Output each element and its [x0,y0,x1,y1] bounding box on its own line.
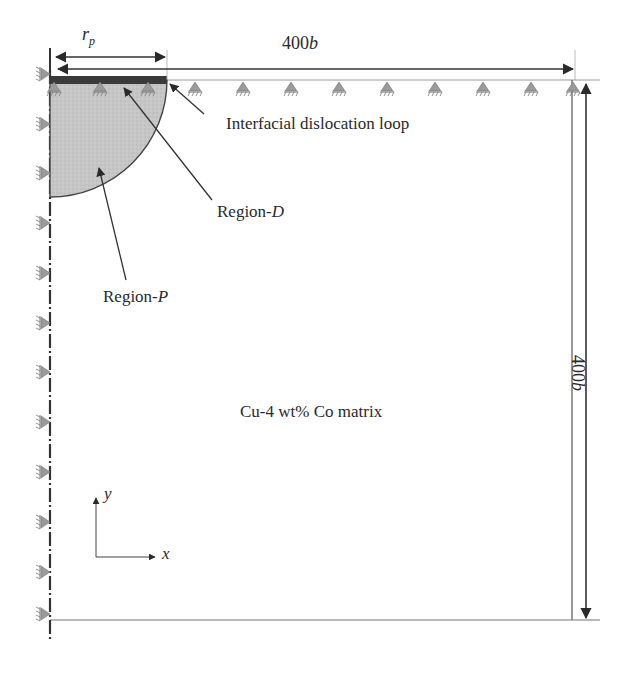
model-diagram [0,0,640,677]
rp-label: rp [82,24,95,49]
region-p-label: Region-P [103,287,168,307]
coordinate-axes [96,498,155,557]
region-d-label: Region-D [217,202,284,222]
region-d-band [50,76,167,84]
height-dimension-label: 400b [567,355,588,391]
matrix-label: Cu-4 wt% Co matrix [240,402,382,422]
axis-x-label: x [162,544,170,564]
width-dimension-label: 400b [282,33,318,54]
axis-y-label: y [104,484,112,504]
width-dimension [58,50,575,80]
interfacial-loop-label: Interfacial dislocation loop [226,114,409,134]
left-roller-supports [36,67,50,621]
region-p-precipitate [50,80,167,197]
rp-dimension [50,48,167,80]
